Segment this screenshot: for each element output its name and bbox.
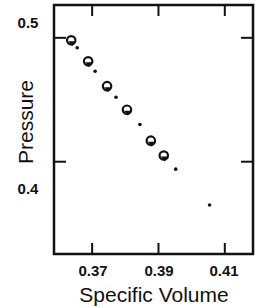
x-tick-label: 0.41 [209, 262, 238, 279]
circle-marker [147, 136, 155, 146]
x-axis-label: Specific Volume [79, 283, 228, 306]
circle-marker [123, 105, 131, 115]
dot-marker [208, 203, 212, 207]
y-tick-label: 0.5 [18, 14, 39, 31]
axis-ticks [54, 5, 253, 254]
plot-frame [54, 5, 253, 254]
scatter-chart: 0.5 0.4 0.37 0.39 0.41 Specific Volume P… [0, 0, 256, 308]
dot-marker [75, 46, 79, 50]
x-tick-label: 0.37 [78, 262, 107, 279]
circle-marker [160, 151, 168, 161]
dot-marker [174, 167, 178, 171]
circle-marker [103, 82, 111, 92]
data-points [67, 36, 211, 207]
circle-marker [84, 57, 92, 67]
dot-marker [93, 69, 97, 73]
dot-marker [114, 95, 118, 99]
y-axis-label: Pressure [14, 80, 37, 164]
y-tick-label: 0.4 [18, 180, 40, 197]
x-tick-label: 0.39 [144, 262, 173, 279]
circle-marker [67, 36, 75, 46]
dot-marker [138, 123, 142, 127]
